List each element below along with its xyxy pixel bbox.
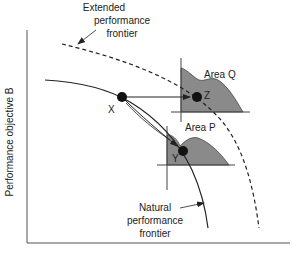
point-x [117,92,127,102]
extended-frontier-label-line3: frontier [106,28,138,39]
point-x-label: X [108,104,115,115]
area-q-label: Area Q [204,69,236,80]
point-z [192,92,202,102]
y-axis-label: Performance objective B [4,87,15,196]
natural-frontier-pointer [180,203,204,208]
point-y-label: Y [172,153,179,164]
extended-frontier-pointer [78,30,96,44]
point-z-label: Z [204,90,210,101]
natural-frontier-label-line2: performance [127,215,184,226]
natural-frontier-label-line3: frontier [139,228,171,239]
performance-frontier-diagram: X Z Y Area Q Area P Extended performance… [0,0,293,256]
natural-frontier-label-line1: Natural [139,202,171,213]
area-q [171,58,250,122]
area-p-label: Area P [185,122,216,133]
extended-frontier-label-line1: Extended [83,2,125,13]
extended-frontier-label-line2: performance [94,15,151,26]
point-y [178,146,188,156]
